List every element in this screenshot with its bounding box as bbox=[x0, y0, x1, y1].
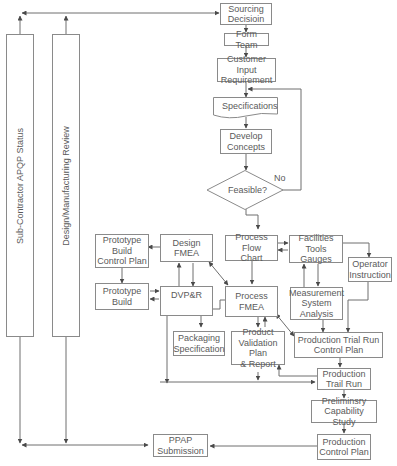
node-design-fmea: Design FMEA bbox=[160, 234, 213, 262]
node-feasible: Feasible? bbox=[228, 185, 267, 195]
node-customer-input-requirement: Customer Input Requirement bbox=[217, 58, 276, 82]
node-sourcing-decision: Sourcing Decisioin bbox=[220, 3, 272, 25]
node-preliminary-capability-study: Preliminsry Capability Study bbox=[311, 400, 377, 423]
node-prototype-build-control-plan: Prototype Build Control Plan bbox=[95, 234, 149, 268]
node-process-fmea: Process FMEA bbox=[225, 286, 278, 317]
node-production-trial-run-control-plan: Production Trial Run Control Plan bbox=[294, 332, 383, 358]
node-ppap-submission: PPAP Submission bbox=[153, 434, 208, 457]
subcontractor-apqp-status-bar: Sub-Contractor APQP Status bbox=[6, 34, 34, 337]
node-prototype-build: Prototype Build bbox=[95, 283, 149, 310]
node-operator-instruction: Operator Instruction bbox=[348, 257, 392, 282]
apqp-flowchart: Sub-Contractor APQP Status Design/Manufa… bbox=[0, 0, 397, 466]
node-dvpr: DVP&R bbox=[160, 286, 213, 316]
design-manufacturing-review-bar: Design/Manufacturing Review bbox=[52, 34, 80, 337]
design-manufacturing-review-label: Design/Manufacturing Review bbox=[61, 126, 71, 246]
node-facilities-tools-gauges: Facilities Tools Gauges bbox=[289, 235, 343, 263]
node-measurement-system-analysis: Measurement System Analysis bbox=[290, 287, 343, 320]
node-form-team: Form Team bbox=[224, 33, 269, 46]
edge-label-no: No bbox=[274, 173, 286, 183]
node-develop-concepts: Develop Concepts bbox=[220, 129, 272, 154]
node-production-control-plan: Production Control Plan bbox=[317, 434, 371, 460]
node-specifications: Specifications bbox=[222, 101, 278, 111]
subcontractor-apqp-status-label: Sub-Contractor APQP Status bbox=[15, 128, 25, 244]
node-process-flow-chart: Process Flow Chart bbox=[225, 235, 278, 261]
node-product-validation-plan-report: Product Validation Plan & Report bbox=[231, 331, 285, 365]
node-packaging-specification: Packaging Specification bbox=[173, 331, 225, 356]
node-production-trail-run: Production Trail Run bbox=[317, 368, 371, 390]
